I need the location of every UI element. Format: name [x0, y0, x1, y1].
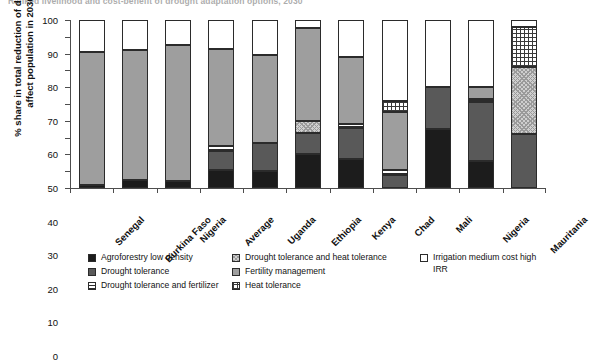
bar-segment-irr [338, 20, 364, 57]
x-axis-label-9: Nigeria [501, 214, 532, 245]
bar-average-3[interactable] [208, 20, 234, 188]
bar-segment-agro [122, 180, 148, 188]
y-tick-label: 70 [47, 115, 58, 126]
bar-segment-irr [295, 20, 321, 28]
bar-nigeria-2[interactable] [165, 20, 191, 188]
bar-segment-agro [208, 170, 234, 188]
bar-segment-fert [208, 49, 234, 146]
x-axis-label-5: Ethiopia [329, 214, 363, 248]
bar-uganda-4[interactable] [252, 20, 278, 188]
legend-label: Drought tolerance [101, 266, 169, 276]
bar-segment-fert [468, 87, 494, 99]
y-tick: 100 [65, 20, 70, 21]
x-tick [113, 188, 114, 193]
plot-area: 0102030405060708090100SenegalBurkina Fas… [70, 20, 546, 188]
bar-segment-dtfert [382, 170, 408, 175]
x-axis-label-7: Chad [411, 214, 436, 239]
bar-kenya-6[interactable] [338, 20, 364, 188]
y-tick: 60 [65, 87, 70, 88]
x-tick [200, 188, 201, 193]
y-tick: 20 [65, 154, 70, 155]
legend-label: Heat tolerance [245, 280, 301, 290]
y-tick: 10 [65, 171, 70, 172]
legend-column-3: Irrigation medium cost high IRR [420, 252, 550, 278]
legend-item-heat[interactable]: Heat tolerance [232, 280, 416, 292]
bar-nigeria-9[interactable] [468, 20, 494, 188]
y-tick-label: 60 [47, 149, 58, 160]
x-axis-label-6: Kenya [370, 214, 398, 242]
legend-swatch-heat-icon [232, 282, 240, 290]
y-tick-label: 40 [47, 216, 58, 227]
legend-swatch-agro-icon [88, 254, 96, 262]
bar-chad-7[interactable] [382, 20, 408, 188]
legend-swatch-dtfert-icon [88, 282, 96, 290]
legend-item-fert[interactable]: Fertility management [232, 266, 416, 278]
y-tick: 30 [65, 138, 70, 139]
x-axis-label-8: Mali [453, 214, 474, 235]
y-tick: 50 [65, 104, 70, 105]
x-tick [416, 188, 417, 193]
bar-segment-fert [165, 45, 191, 181]
y-tick-label: 90 [47, 48, 58, 59]
bar-mauritania-10[interactable] [511, 20, 537, 188]
bar-segment-fert [122, 50, 148, 179]
y-tick: 40 [65, 121, 70, 122]
x-tick [330, 188, 331, 193]
x-tick [243, 188, 244, 193]
legend-item-dtfert[interactable]: Drought tolerance and fertilizer [88, 280, 220, 292]
chart-title: Ranked livelihood and cost-benefit of dr… [8, 0, 303, 6]
legend-item-dt[interactable]: Drought tolerance [88, 266, 220, 278]
y-tick-label: 0 [53, 351, 58, 362]
y-tick: 80 [65, 54, 70, 55]
y-tick-label: 50 [47, 183, 58, 194]
bar-segment-irr [79, 20, 105, 52]
bar-segment-fert [252, 55, 278, 142]
bar-segment-fert [295, 28, 321, 120]
bar-ethiopia-5[interactable] [295, 20, 321, 188]
legend-item-irr[interactable]: Irrigation medium cost high IRR [420, 252, 550, 275]
bar-burkina-faso-1[interactable] [122, 20, 148, 188]
legend-column-2: Drought tolerance and heat toleranceFert… [232, 252, 416, 295]
legend-label: Drought tolerance and heat tolerance [245, 252, 387, 262]
y-axis-line [70, 20, 71, 188]
bar-segment-irr [122, 20, 148, 50]
bar-segment-irr [468, 20, 494, 87]
bar-segment-irr [425, 20, 451, 87]
bar-segment-fert [79, 52, 105, 185]
y-tick: 90 [65, 37, 70, 38]
x-axis-label-4: Uganda [285, 214, 317, 246]
bar-segment-heat [511, 27, 537, 67]
legend-swatch-dtht-icon [232, 254, 240, 262]
bar-segment-dtfert [338, 124, 364, 127]
bar-segment-agro [425, 129, 451, 188]
y-tick-label: 30 [47, 250, 58, 261]
bar-segment-agro [79, 185, 105, 188]
bar-segment-dt [511, 134, 537, 188]
y-tick-label: 80 [47, 82, 58, 93]
y-tick-label: 10 [47, 317, 58, 328]
bar-mali-8[interactable] [425, 20, 451, 188]
legend-swatch-fert-icon [232, 268, 240, 276]
x-tick [70, 188, 71, 193]
bar-segment-fert [382, 112, 408, 169]
bar-segment-agro [295, 154, 321, 188]
legend-item-dtht[interactable]: Drought tolerance and heat tolerance [232, 252, 416, 264]
bar-segment-fert [338, 57, 364, 124]
bar-segment-dt [295, 133, 321, 155]
bar-segment-dtfert [468, 99, 494, 102]
bar-segment-dt [208, 151, 234, 169]
x-tick [545, 188, 546, 193]
bar-segment-irr [382, 20, 408, 101]
x-axis-label-3: Average [242, 214, 276, 248]
legend-label: Agroforestry low density [101, 252, 193, 262]
bar-segment-dt [468, 102, 494, 161]
x-axis-line [70, 188, 546, 189]
bar-senegal-0[interactable] [79, 20, 105, 188]
x-tick [459, 188, 460, 193]
legend-item-agro[interactable]: Agroforestry low density [88, 252, 220, 264]
y-tick-label: 100 [42, 15, 58, 26]
bar-segment-dtht [295, 121, 321, 133]
bar-segment-irr [252, 20, 278, 55]
y-tick-label: 20 [47, 283, 58, 294]
